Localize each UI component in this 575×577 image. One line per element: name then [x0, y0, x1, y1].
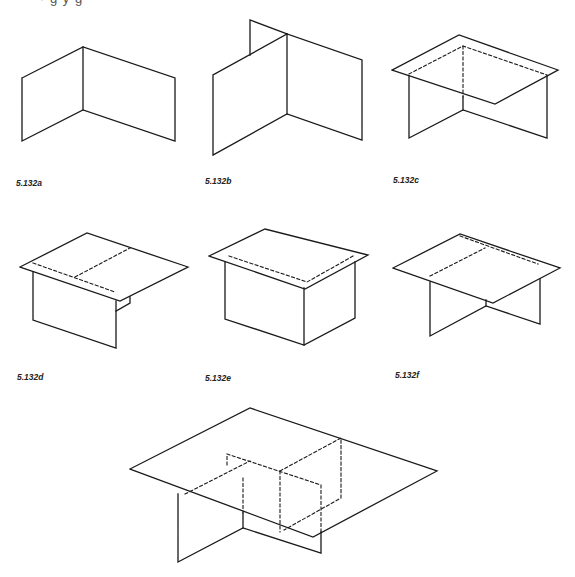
diagram-canvas	[0, 0, 575, 577]
visible-edge-line	[393, 234, 560, 303]
visible-edge-line	[409, 76, 547, 138]
hidden-edge-line	[185, 461, 250, 494]
visible-edge-line	[130, 408, 437, 537]
visible-edge-line	[178, 494, 321, 562]
figure-label-d: 5.132d	[17, 372, 43, 382]
figure-sheet: · g y g 5.132a 5.132b 5.132c 5.132d 5.13…	[0, 0, 575, 577]
figure-label-a: 5.132a	[16, 178, 42, 188]
hidden-edge-line	[75, 248, 130, 277]
figure-5-132b	[213, 20, 362, 155]
figure-5-132c	[392, 35, 558, 138]
figure-5-132e	[209, 229, 368, 345]
clipped-header-text: · g y g	[40, 0, 83, 6]
figure-label-b: 5.132b	[205, 176, 231, 186]
figure-label-c: 5.132c	[393, 175, 419, 185]
visible-edge-line	[225, 262, 355, 345]
hidden-edge-line	[460, 236, 538, 264]
figure-5-132g-composite	[130, 408, 437, 562]
figure-label-f: 5.132f	[395, 370, 419, 380]
hidden-edge-line	[430, 248, 485, 276]
hidden-edge-line	[280, 438, 341, 530]
visible-edge-line	[33, 272, 116, 348]
visible-edge-line	[209, 229, 368, 289]
visible-edge-line	[22, 47, 175, 141]
figure-label-e: 5.132e	[205, 373, 231, 383]
visible-edge-line	[392, 35, 558, 104]
hidden-edge-line	[33, 263, 115, 292]
figure-5-132f	[393, 234, 560, 336]
figure-5-132d	[20, 233, 188, 348]
hidden-edge-line	[229, 255, 355, 282]
figure-5-132a	[22, 47, 175, 141]
